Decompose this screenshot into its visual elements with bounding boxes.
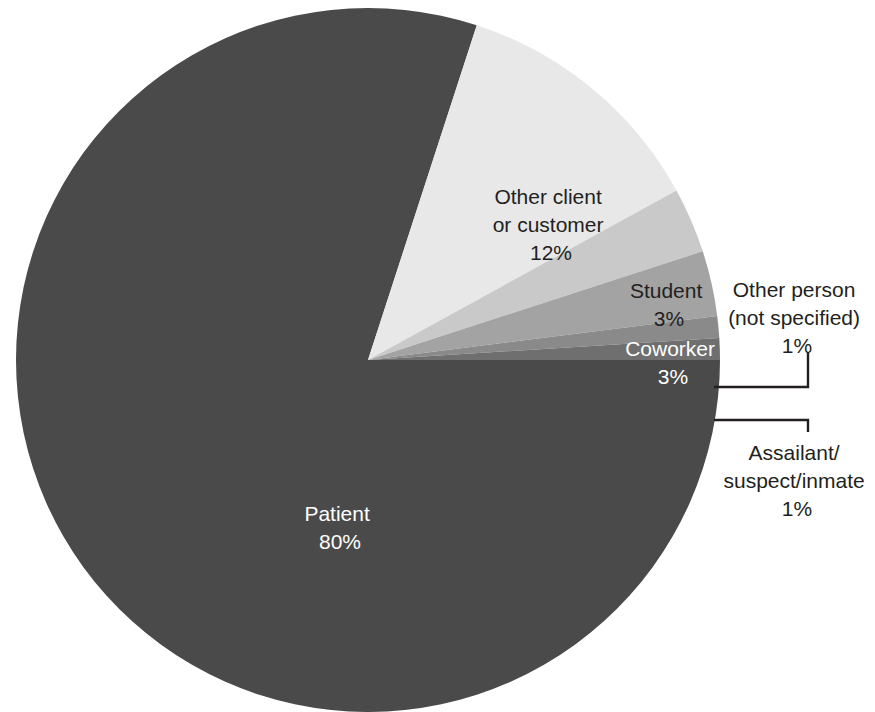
pie-slices-group (16, 8, 720, 712)
slice-label-student-name: Student (630, 279, 703, 302)
leader-line-other-person-not-specified (714, 352, 808, 387)
callout-label-assailant: Assailant/ suspect/inmate 1% (723, 441, 870, 520)
slice-label-patient-value: 80% (319, 530, 361, 553)
leader-line-assailant-suspect-inmate (714, 420, 808, 432)
callout-label-assailant-value: 1% (782, 497, 812, 520)
callout-leader-lines-group (714, 352, 808, 432)
slice-label-coworker-name: Coworker (625, 337, 715, 360)
slice-label-student-value: 3% (654, 307, 684, 330)
callout-label-assailant-line2: suspect/inmate (723, 469, 864, 492)
pie-chart: Patient 80% Other client or customer 12%… (0, 0, 875, 712)
callout-label-other-person-value: 1% (782, 334, 812, 357)
callout-label-assailant-line1: Assailant/ (749, 441, 840, 464)
callout-label-other-person-line1: Other person (733, 278, 856, 301)
callout-label-other-person-line2: (not specified) (728, 306, 860, 329)
slice-label-patient-name: Patient (304, 502, 370, 525)
slice-label-other-client-line2: or customer (493, 213, 604, 236)
slice-label-other-client-value: 12% (530, 241, 572, 264)
slice-label-other-client-line1: Other client (494, 185, 602, 208)
callout-label-other-person: Other person (not specified) 1% (728, 278, 866, 357)
slice-label-coworker-value: 3% (658, 365, 688, 388)
pie-chart-svg: Patient 80% Other client or customer 12%… (0, 0, 875, 712)
